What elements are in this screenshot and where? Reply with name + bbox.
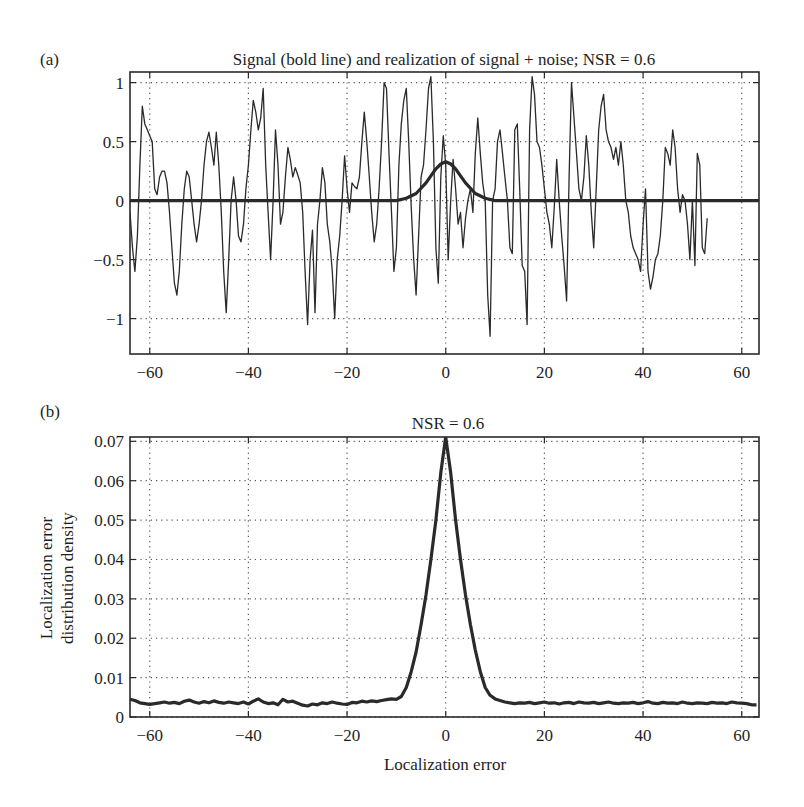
panel-a-series xyxy=(130,77,759,337)
x-tick-label: −40 xyxy=(235,363,262,382)
panel-a-frame xyxy=(130,72,759,354)
x-tick-label: 60 xyxy=(733,363,750,382)
y-tick-label: 0.07 xyxy=(94,432,124,451)
figure: (a) Signal (bold line) and realization o… xyxy=(0,0,804,807)
panel-b-grid xyxy=(130,437,759,717)
thin-series-line xyxy=(130,77,707,337)
x-tick-label: 20 xyxy=(536,726,553,745)
bold-series-line xyxy=(130,437,757,706)
x-tick-label: 0 xyxy=(441,363,450,382)
panel-a-signal-plot: (a) Signal (bold line) and realization o… xyxy=(40,50,759,382)
y-tick-label: 0.02 xyxy=(94,629,124,648)
panel-b-ylabel-line2: distribution density xyxy=(58,512,77,644)
panel-b-series xyxy=(130,437,757,706)
x-tick-label: 0 xyxy=(441,726,450,745)
x-tick-label: −60 xyxy=(136,363,163,382)
x-tick-label: −60 xyxy=(136,726,163,745)
x-tick-label: −20 xyxy=(334,363,361,382)
panel-b-density-plot: (b) NSR = 0.6 −60−40−2002040600.070.060.… xyxy=(37,402,759,774)
x-tick-label: −40 xyxy=(235,726,262,745)
panel-a-title: Signal (bold line) and realization of si… xyxy=(233,50,655,69)
y-tick-label: 0.05 xyxy=(94,511,124,530)
y-tick-label: 0.04 xyxy=(94,550,124,569)
x-tick-label: 40 xyxy=(635,363,652,382)
y-tick-label: 0.5 xyxy=(103,133,124,152)
y-tick-label: 0.06 xyxy=(94,472,124,491)
y-tick-label: 0 xyxy=(116,192,125,211)
panel-b-ylabel-line1: Localization error xyxy=(37,517,56,640)
panel-a-grid xyxy=(130,72,759,354)
x-tick-label: 60 xyxy=(733,726,750,745)
panel-b-label: (b) xyxy=(40,402,60,421)
y-tick-label: 0.03 xyxy=(94,590,124,609)
y-tick-label: −0.5 xyxy=(93,251,124,270)
panel-b-xlabel: Localization error xyxy=(384,755,507,774)
y-tick-label: 0.01 xyxy=(94,669,124,688)
x-tick-label: 20 xyxy=(536,363,553,382)
x-tick-label: −20 xyxy=(334,726,361,745)
y-tick-label: 0 xyxy=(116,708,125,727)
y-tick-label: −1 xyxy=(106,310,124,329)
panel-b-frame xyxy=(130,437,759,717)
panel-a-label: (a) xyxy=(40,50,59,69)
panel-b-title: NSR = 0.6 xyxy=(412,414,484,433)
y-tick-label: 1 xyxy=(116,74,125,93)
x-tick-label: 40 xyxy=(635,726,652,745)
